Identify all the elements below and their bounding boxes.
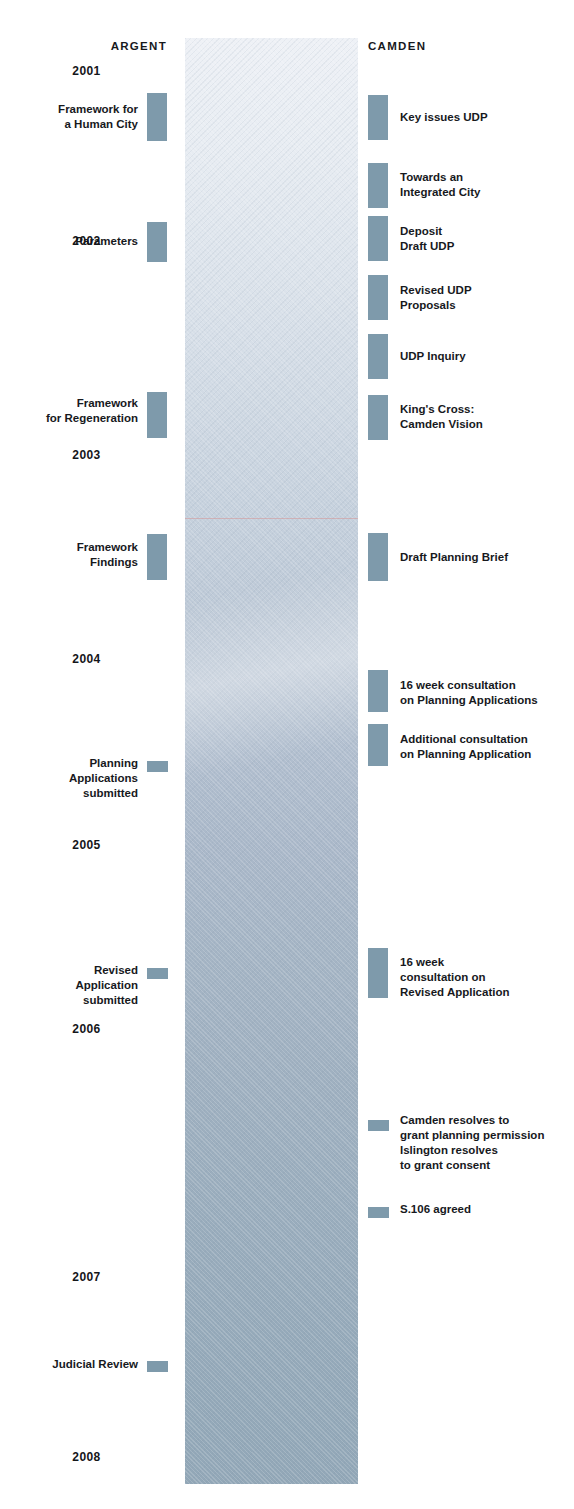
marker-deposit-draft-udp[interactable] <box>368 216 388 261</box>
marker-revised-udp-proposals[interactable] <box>368 275 388 320</box>
event-label-16-week-consultation-on-revised-applicatio: 16 week consultation on Revised Applicat… <box>400 955 574 1000</box>
event-label-king-s-cross-camden-vision: King's Cross: Camden Vision <box>400 402 574 432</box>
year-label-2001: 2001 <box>0 64 173 78</box>
event-label-s-106-agreed: S.106 agreed <box>400 1202 574 1217</box>
event-label-revised-udp-proposals: Revised UDP Proposals <box>400 283 574 313</box>
event-label-towards-an-integrated-city: Towards an Integrated City <box>400 170 574 200</box>
marker-planning-applications-submitted[interactable] <box>147 761 168 772</box>
marker-16-week-consultation-on-revised-applicatio[interactable] <box>368 948 388 998</box>
marker-towards-an-integrated-city[interactable] <box>368 163 388 208</box>
event-label-deposit-draft-udp: Deposit Draft UDP <box>400 224 574 254</box>
year-label-2004: 2004 <box>0 652 173 666</box>
year-label-2006: 2006 <box>0 1022 173 1036</box>
event-label-key-issues-udp: Key issues UDP <box>400 110 574 125</box>
year-label-2007: 2007 <box>0 1270 173 1284</box>
marker-judicial-review[interactable] <box>147 1361 168 1372</box>
event-label-camden-resolves-to-grant-planning-permissi: Camden resolves to grant planning permis… <box>400 1113 574 1173</box>
marker-s-106-agreed[interactable] <box>368 1207 389 1218</box>
event-label-draft-planning-brief: Draft Planning Brief <box>400 550 574 565</box>
year-label-2002: 2002 <box>0 234 173 248</box>
marker-additional-consultation-on-planning-applic[interactable] <box>368 724 388 766</box>
event-label-revised-application-submitted: Revised Application submitted <box>0 963 138 1008</box>
marker-16-week-consultation-on-planning-applicati[interactable] <box>368 670 388 712</box>
marker-udp-inquiry[interactable] <box>368 334 388 379</box>
scan-artifact-line <box>185 518 358 519</box>
marker-framework-for-regeneration[interactable] <box>147 392 167 438</box>
event-label-16-week-consultation-on-planning-applicati: 16 week consultation on Planning Applica… <box>400 678 574 708</box>
event-label-framework-for-regeneration: Framework for Regeneration <box>0 396 138 426</box>
marker-framework-findings[interactable] <box>147 534 167 580</box>
event-label-framework-findings: Framework Findings <box>0 540 138 570</box>
marker-framework-for-a-human-city[interactable] <box>147 93 167 141</box>
marker-king-s-cross-camden-vision[interactable] <box>368 395 388 440</box>
column-heading-argent: ARGENT <box>0 40 167 52</box>
timeline-diagram: 20012002200320042005200620072008 ARGENT … <box>0 0 574 1509</box>
event-label-additional-consultation-on-planning-applic: Additional consultation on Planning Appl… <box>400 732 574 762</box>
event-label-udp-inquiry: UDP Inquiry <box>400 349 574 364</box>
column-heading-camden: CAMDEN <box>368 40 426 52</box>
event-label-planning-applications-submitted: Planning Applications submitted <box>0 756 138 801</box>
marker-draft-planning-brief[interactable] <box>368 533 388 581</box>
year-label-2008: 2008 <box>0 1450 173 1464</box>
year-column <box>185 38 358 1484</box>
marker-key-issues-udp[interactable] <box>368 95 388 140</box>
year-label-2003: 2003 <box>0 448 173 462</box>
year-label-2005: 2005 <box>0 838 173 852</box>
event-label-framework-for-a-human-city: Framework for a Human City <box>0 102 138 132</box>
event-label-judicial-review: Judicial Review <box>0 1357 138 1372</box>
marker-revised-application-submitted[interactable] <box>147 968 168 979</box>
marker-camden-resolves-to-grant-planning-permissi[interactable] <box>368 1120 389 1131</box>
